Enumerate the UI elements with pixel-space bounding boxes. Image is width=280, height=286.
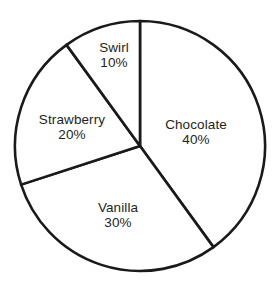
pie-slice-group xyxy=(15,21,265,271)
pie-label-chocolate: Chocolate 40% xyxy=(165,117,227,147)
pie-label-vanilla-name: Vanilla xyxy=(98,200,138,215)
pie-chart: Chocolate 40% Vanilla 30% Strawberry 20%… xyxy=(0,0,280,286)
pie-label-strawberry: Strawberry 20% xyxy=(39,112,105,142)
pie-chart-graphic xyxy=(0,0,280,286)
pie-label-vanilla: Vanilla 30% xyxy=(98,200,138,230)
pie-label-vanilla-value: 30% xyxy=(98,215,138,230)
pie-label-strawberry-value: 20% xyxy=(39,127,105,142)
pie-label-strawberry-name: Strawberry xyxy=(39,112,105,127)
pie-label-chocolate-value: 40% xyxy=(165,132,227,147)
pie-label-chocolate-name: Chocolate xyxy=(165,117,227,132)
pie-label-swirl-value: 10% xyxy=(99,55,129,70)
pie-label-swirl: Swirl 10% xyxy=(99,40,129,70)
pie-label-swirl-name: Swirl xyxy=(99,40,129,55)
